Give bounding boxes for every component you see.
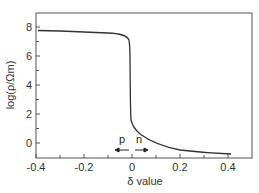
- y-axis-label: log(ρ/Ωm): [4, 61, 16, 110]
- annotation-n: n: [136, 133, 142, 145]
- arrow-left-icon: [115, 148, 129, 152]
- x-tick-label: 0.2: [172, 161, 187, 173]
- annotation-p: p: [119, 133, 125, 145]
- x-axis-label: δ value: [127, 175, 162, 187]
- resistivity-curve: [38, 31, 231, 155]
- y-tick-label: 4: [26, 79, 32, 91]
- y-ticks: [36, 27, 40, 143]
- x-tick-label: 0.4: [220, 161, 235, 173]
- x-ticks: [36, 154, 228, 158]
- y-tick-label: 8: [26, 21, 32, 33]
- y-tick-label: 6: [26, 50, 32, 62]
- chart: 0 2 4 6 8 -0.4 -0.2 0 0.2 0.4 δ value lo…: [0, 0, 259, 193]
- y-tick-label: 0: [26, 137, 32, 149]
- x-tick-label: -0.2: [75, 161, 94, 173]
- y-tick-label: 2: [26, 108, 32, 120]
- x-tick-label: 0: [129, 161, 135, 173]
- x-tick-label: -0.4: [27, 161, 46, 173]
- arrow-right-icon: [135, 148, 148, 152]
